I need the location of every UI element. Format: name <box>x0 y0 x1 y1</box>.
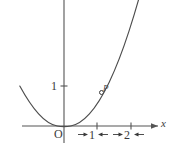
x-tick-label-2: 2 <box>124 129 130 141</box>
parabola-curve <box>20 0 140 127</box>
math-figure: x O 1 1 2 P <box>0 0 178 159</box>
x-axis-label: x <box>161 118 166 129</box>
origin-label: O <box>54 128 63 140</box>
curve-point-label: P <box>103 84 109 93</box>
x-axis-arrowhead-icon <box>151 123 158 129</box>
y-tick-label-1: 1 <box>51 80 57 92</box>
x-tick-label-1: 1 <box>89 129 95 141</box>
